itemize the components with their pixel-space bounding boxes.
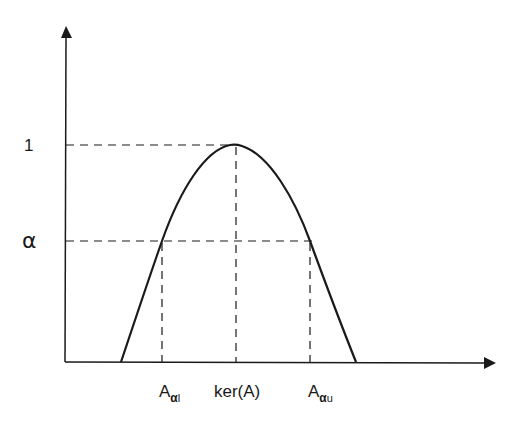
x-axis xyxy=(65,362,484,363)
x-label-alpha-upper-sub2: u xyxy=(327,392,333,404)
x-label-alpha-upper-sub: α xyxy=(319,391,326,405)
x-label-alpha-lower-sub2: l xyxy=(178,392,180,404)
diagram-canvas xyxy=(0,0,511,433)
x-label-alpha-upper-main: A xyxy=(308,382,319,401)
x-label-kernel: ker(A) xyxy=(214,383,260,400)
y-axis-arrow-icon xyxy=(61,26,72,38)
y-axis xyxy=(65,38,66,362)
y-tick-1: 1 xyxy=(24,137,33,154)
x-label-alpha-upper: Aαu xyxy=(308,383,333,400)
x-label-alpha-lower-sub: α xyxy=(170,391,177,405)
y-tick-alpha: α xyxy=(22,230,37,252)
x-label-alpha-lower: Aαl xyxy=(159,383,180,400)
membership-curve xyxy=(121,145,356,362)
x-label-alpha-lower-main: A xyxy=(159,382,170,401)
x-axis-arrow-icon xyxy=(484,357,496,369)
membership-diagram: 1 α Aαl ker(A) Aαu xyxy=(0,0,511,433)
